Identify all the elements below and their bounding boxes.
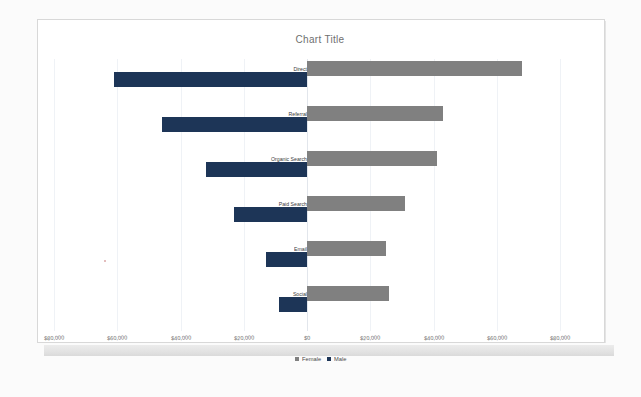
screenshot-page: Chart Title DirectReferralOrganic Search… <box>0 0 641 397</box>
chart-row: Social <box>37 284 603 329</box>
x-axis-tick-label: $40,000 <box>410 334 458 343</box>
page-edge-strip <box>44 345 614 356</box>
bar-male[interactable] <box>162 117 307 132</box>
chart-row: Paid Search <box>37 194 603 239</box>
x-axis-tick-label: $80,000 <box>536 334 584 343</box>
legend-swatch-icon <box>327 357 331 361</box>
x-axis-tick-label: $20,000 <box>346 334 394 343</box>
paper-speck <box>104 260 106 262</box>
category-label: Paid Search <box>0 202 307 207</box>
plot-area[interactable]: DirectReferralOrganic SearchPaid SearchE… <box>37 59 603 331</box>
chart-legend[interactable]: FemaleMale <box>37 356 603 362</box>
bar-female[interactable] <box>307 61 522 76</box>
legend-label: Male <box>334 356 346 363</box>
legend-item[interactable]: Female <box>295 356 318 362</box>
chart-row: Referral <box>37 104 603 149</box>
category-label: Direct <box>0 67 307 72</box>
bar-male[interactable] <box>279 297 307 312</box>
bar-male[interactable] <box>206 162 307 177</box>
bar-male[interactable] <box>114 72 307 87</box>
x-axis-tick-label: $60,000 <box>93 334 141 343</box>
category-label: Email <box>0 247 307 252</box>
bar-male[interactable] <box>234 207 307 222</box>
chart-row: Direct <box>37 59 603 104</box>
chart-title[interactable]: Chart Title <box>37 34 603 45</box>
legend-item[interactable]: Male <box>327 356 344 362</box>
x-axis-tick-label: $40,000 <box>157 334 205 343</box>
x-axis-tick-label: $20,000 <box>220 334 268 343</box>
bar-male[interactable] <box>266 252 307 267</box>
x-axis-tick-label: $60,000 <box>473 334 521 343</box>
chart-row: Email <box>37 239 603 284</box>
bar-female[interactable] <box>307 151 437 166</box>
bar-female[interactable] <box>307 106 443 121</box>
x-axis-tick-label: $0 <box>283 334 331 343</box>
bar-female[interactable] <box>307 286 389 301</box>
category-label: Referral <box>0 112 307 117</box>
chart-container[interactable]: Chart Title DirectReferralOrganic Search… <box>37 19 603 341</box>
category-label: Organic Search <box>0 157 307 162</box>
category-label: Social <box>0 292 307 297</box>
legend-label: Female <box>302 356 321 363</box>
bar-female[interactable] <box>307 196 405 211</box>
legend-swatch-icon <box>295 357 299 361</box>
x-axis-tick-label: $80,000 <box>30 334 78 343</box>
chart-row: Organic Search <box>37 149 603 194</box>
bar-female[interactable] <box>307 241 386 256</box>
